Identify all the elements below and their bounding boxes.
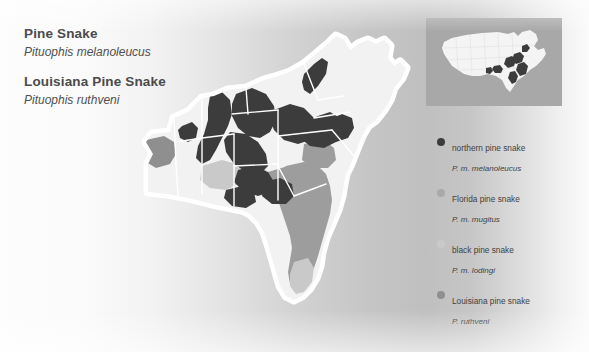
legend-item-florida-pine-snake: Florida pine snake P. m. mugitus	[437, 187, 582, 227]
title-spacer	[24, 60, 166, 74]
legend-swatch-black-pine-snake	[437, 240, 445, 248]
legend-label-louisiana-pine-snake: Louisiana pine snake	[452, 296, 530, 306]
legend-scientific-florida-pine-snake: P. m. mugitus	[452, 215, 500, 224]
legend-swatch-florida-pine-snake	[437, 189, 445, 197]
legend-scientific-louisiana-pine-snake: P. ruthveni	[452, 317, 489, 326]
species-common-name-2: Louisiana Pine Snake	[24, 74, 166, 91]
legend-label-florida-pine-snake: Florida pine snake	[452, 194, 520, 204]
species-scientific-name-2: Pituophis ruthveni	[24, 93, 166, 108]
range-map-figure: Pine Snake Pituophis melanoleucus Louisi…	[0, 0, 589, 352]
legend-swatch-louisiana-pine-snake	[437, 291, 445, 299]
legend-label-black-pine-snake: black pine snake	[452, 245, 514, 255]
legend-swatch-northern-pine-snake	[437, 138, 445, 146]
legend-scientific-black-pine-snake: P. m. lodingi	[452, 266, 495, 275]
us-locator-inset	[426, 18, 562, 106]
legend-item-louisiana-pine-snake: Louisiana pine snake P. ruthveni	[437, 289, 582, 329]
species-common-name-1: Pine Snake	[24, 26, 166, 43]
us-locator-svg	[426, 18, 562, 106]
legend-label-northern-pine-snake: northern pine snake	[452, 143, 525, 153]
legend-item-black-pine-snake: black pine snake P. m. lodingi	[437, 238, 582, 278]
legend-item-northern-pine-snake: northern pine snake P. m. melanoleucus	[437, 136, 582, 176]
species-scientific-name-1: Pituophis melanoleucus	[24, 45, 166, 60]
title-block: Pine Snake Pituophis melanoleucus Louisi…	[24, 26, 166, 108]
map-legend: northern pine snake P. m. melanoleucus F…	[437, 136, 582, 340]
legend-scientific-northern-pine-snake: P. m. melanoleucus	[452, 164, 521, 173]
